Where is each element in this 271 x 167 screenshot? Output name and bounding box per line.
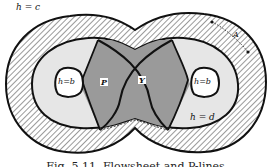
point-p-label: P xyxy=(100,78,108,86)
diagram-canvas xyxy=(0,0,271,167)
outer-boundary-label: h = c xyxy=(16,3,40,12)
width-marker-label: A xyxy=(233,31,239,39)
point-y-label: Y xyxy=(138,76,146,84)
inner-boundary-label: h = d xyxy=(190,113,215,122)
figure-caption: Fig. 5.11. Flowsheet and P-lines xyxy=(0,160,271,167)
diagram-figure: h = c A h=b h=b P Y h = d Fig. 5.11. Flo… xyxy=(0,0,271,167)
right-hole-label: h=b xyxy=(194,78,211,86)
left-hole-label: h=b xyxy=(58,78,75,86)
